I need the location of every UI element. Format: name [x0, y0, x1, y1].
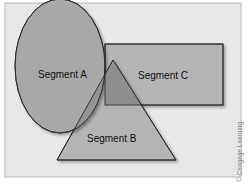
segmentation-diagram: Segment A Segment C Segment B © Cengage … — [0, 0, 249, 186]
diagram-canvas — [0, 0, 249, 186]
segment-c-label: Segment C — [138, 70, 188, 81]
segment-b-label: Segment B — [87, 133, 136, 144]
copyright-credit: © Cengage Learning — [236, 122, 243, 182]
segment-a-label: Segment A — [38, 69, 87, 80]
